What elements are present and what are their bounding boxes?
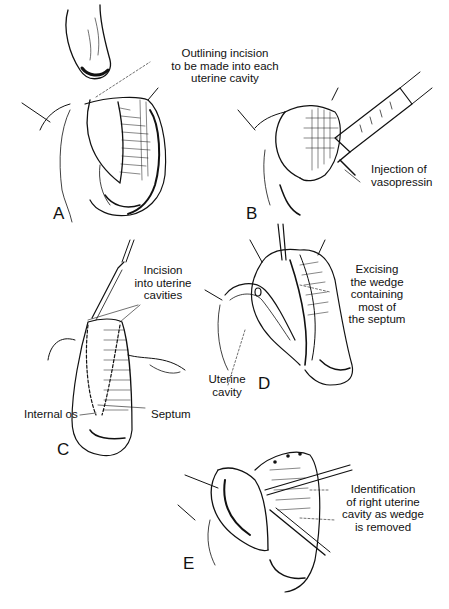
label-uterine-cavity: Uterine cavity: [204, 373, 250, 398]
label-line: uterine cavity: [150, 72, 300, 85]
label-line: vasopressin: [371, 176, 432, 189]
label-incision-uterine-cavities: Incision into uterine cavities: [130, 264, 196, 302]
label-line: the septum: [342, 313, 412, 326]
label-line: Identification: [333, 483, 433, 496]
label-line: is removed: [333, 521, 433, 534]
label-line: Internal os: [24, 408, 78, 420]
label-injection-vasopressin: Injection of vasopressin: [371, 163, 432, 188]
panel-letter-b: B: [246, 205, 257, 222]
label-line: to be made into each: [150, 60, 300, 73]
label-line: containing: [342, 288, 412, 301]
label-outlining-incision: Outlining incision to be made into each …: [150, 47, 300, 85]
label-line: Excising: [342, 263, 412, 276]
panel-letter-a: A: [53, 205, 64, 222]
label-line: cavity: [204, 386, 250, 399]
panel-letter-e: E: [183, 555, 194, 572]
label-line: most of: [342, 301, 412, 314]
label-line: cavity as wedge: [333, 508, 433, 521]
panel-e-drawing: [178, 452, 352, 592]
label-line: Injection of: [371, 163, 432, 176]
label-internal-os: Internal os: [24, 408, 78, 421]
label-line: into uterine: [130, 277, 196, 290]
label-excising-wedge: Excising the wedge containing most of th…: [342, 263, 412, 326]
label-line: cavities: [130, 289, 196, 302]
panel-a-drawing: [22, 5, 166, 222]
panel-d-drawing: [205, 224, 353, 385]
label-line: Septum: [151, 408, 191, 420]
panel-letter-d: D: [258, 375, 270, 392]
label-line: Uterine: [204, 373, 250, 386]
label-septum: Septum: [151, 408, 191, 421]
panel-letter-c: C: [57, 441, 69, 458]
syringe-icon: [335, 72, 432, 162]
label-identification-right-cavity: Identification of right uterine cavity a…: [333, 483, 433, 533]
panel-b-drawing: [238, 72, 432, 215]
label-line: Incision: [130, 264, 196, 277]
label-line: of right uterine: [333, 496, 433, 509]
label-line: the wedge: [342, 276, 412, 289]
label-line: Outlining incision: [150, 47, 300, 60]
